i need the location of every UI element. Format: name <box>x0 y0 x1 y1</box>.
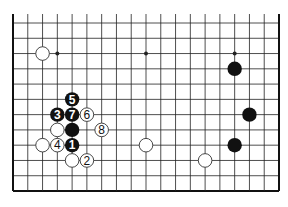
white-stone <box>198 154 212 168</box>
move-number-label: 7 <box>69 108 76 122</box>
white-stone <box>139 138 153 152</box>
black-stone-move-7: 7 <box>65 107 79 121</box>
white-stone-icon <box>139 138 153 152</box>
white-stone-icon <box>36 47 50 61</box>
white-stone-icon <box>198 154 212 168</box>
white-stone <box>65 154 79 168</box>
move-number-label: 4 <box>54 138 61 152</box>
black-stone <box>227 138 241 152</box>
black-stone <box>242 107 256 121</box>
board-grid <box>13 14 279 191</box>
black-stone-move-5: 5 <box>65 92 79 106</box>
white-stone-move-2: 2 <box>80 154 94 168</box>
white-stone-move-8: 8 <box>95 123 109 137</box>
black-stone-icon <box>242 107 256 121</box>
black-stone-move-3: 3 <box>50 107 64 121</box>
move-number-label: 1 <box>69 138 76 152</box>
white-stone-icon <box>65 154 79 168</box>
star-point-icon <box>233 52 237 56</box>
white-stone-move-6: 6 <box>80 108 94 122</box>
move-number-label: 3 <box>54 108 61 122</box>
white-stone <box>36 138 50 152</box>
white-stone <box>51 123 65 137</box>
move-number-label: 5 <box>69 93 76 107</box>
white-stone-icon <box>36 138 50 152</box>
move-number-label: 2 <box>84 154 91 168</box>
black-stone-icon <box>65 123 79 137</box>
white-stone-icon <box>51 123 65 137</box>
star-point-icon <box>144 52 148 56</box>
white-stone-move-4: 4 <box>51 138 65 152</box>
move-number-label: 6 <box>84 108 91 122</box>
go-board-diagram: 53768412 <box>0 0 288 207</box>
black-stone <box>65 123 79 137</box>
black-stone-icon <box>227 62 241 76</box>
move-number-label: 8 <box>98 123 105 137</box>
star-point-icon <box>55 52 59 56</box>
black-stone <box>227 62 241 76</box>
white-stone <box>36 47 50 61</box>
black-stone-move-1: 1 <box>65 138 79 152</box>
black-stone-icon <box>227 138 241 152</box>
